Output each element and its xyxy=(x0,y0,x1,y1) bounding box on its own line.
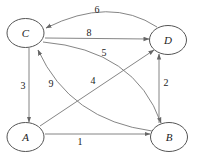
node-b-label: B xyxy=(166,131,173,143)
node-d: D xyxy=(150,26,187,55)
weight-d-c: 6 xyxy=(95,4,100,15)
graph-diagram: 6 8 5 4 9 3 2 1 C D A B xyxy=(0,0,197,159)
node-d-label: D xyxy=(163,34,172,46)
weight-a-d: 4 xyxy=(91,75,96,86)
weight-c-d: 8 xyxy=(87,27,92,38)
node-b: B xyxy=(151,123,188,152)
weight-b-c: 9 xyxy=(49,78,54,89)
weight-c-b: 5 xyxy=(102,47,107,58)
node-a: A xyxy=(7,123,44,152)
weight-b-d: 2 xyxy=(164,77,169,88)
node-c: C xyxy=(7,19,44,48)
weight-c-a: 3 xyxy=(21,80,26,91)
edge-c-d xyxy=(45,38,149,39)
node-c-label: C xyxy=(22,27,30,39)
weight-a-b: 1 xyxy=(78,136,83,147)
node-a-label: A xyxy=(21,131,29,143)
edge-b-c xyxy=(38,50,152,131)
edge-d-c xyxy=(46,12,157,28)
